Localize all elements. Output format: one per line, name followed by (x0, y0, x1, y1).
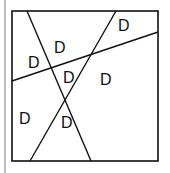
region-label: D (100, 71, 112, 88)
geometry-diagram: DDDDDDD (0, 0, 170, 173)
region-label: D (54, 39, 66, 56)
region-label: D (63, 69, 75, 86)
region-labels: DDDDDDD (19, 17, 130, 131)
region-label: D (118, 17, 130, 34)
dividing-lines (12, 11, 158, 161)
region-label: D (19, 110, 31, 127)
region-label: D (28, 54, 40, 71)
region-label: D (61, 114, 73, 131)
line-a (27, 11, 91, 161)
outer-square (12, 11, 158, 161)
